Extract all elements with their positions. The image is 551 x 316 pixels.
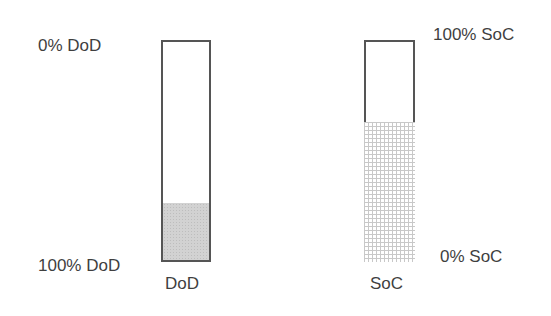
dod-caption: DoD [165,274,199,294]
dod-fill [163,203,209,260]
dod-bottom-label: 100% DoD [38,256,120,276]
soc-top-label: 100% SoC [433,25,514,45]
soc-bottom-label: 0% SoC [440,247,502,267]
soc-caption: SoC [370,274,403,294]
dod-bar [161,40,211,262]
soc-fill [364,122,415,262]
dod-top-label: 0% DoD [38,36,101,56]
soc-empty-section [364,40,415,123]
